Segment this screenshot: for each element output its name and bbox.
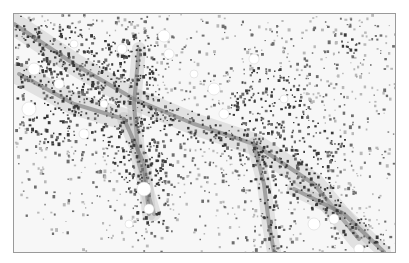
cell-nucleus	[96, 171, 99, 173]
cell-nucleus	[280, 149, 282, 152]
cell-nucleus	[322, 193, 325, 196]
cell-nucleus	[60, 94, 63, 97]
cell-nucleus	[335, 83, 337, 85]
cell-nucleus	[21, 81, 24, 84]
cell-nucleus	[383, 157, 385, 159]
cell-nucleus	[162, 182, 163, 183]
cell-nucleus	[52, 28, 54, 30]
cell-nucleus	[148, 194, 151, 197]
cell-nucleus	[17, 56, 20, 59]
cell-nucleus	[257, 67, 260, 70]
cell-nucleus	[112, 99, 114, 101]
cell-nucleus	[123, 156, 125, 159]
cell-nucleus	[45, 70, 48, 73]
cell-nucleus	[40, 86, 42, 88]
cell-nucleus	[302, 38, 303, 39]
cell-nucleus	[338, 143, 340, 145]
cell-nucleus	[22, 36, 23, 37]
cell-nucleus	[233, 114, 235, 116]
cell-nucleus	[34, 76, 35, 78]
cell-nucleus	[182, 177, 184, 180]
cell-nucleus	[188, 98, 190, 100]
cell-nucleus	[272, 170, 275, 173]
cell-nucleus	[29, 124, 32, 126]
cell-nucleus	[156, 213, 158, 216]
cell-nucleus	[101, 128, 104, 131]
cell-nucleus	[296, 88, 299, 91]
cell-nucleus	[94, 117, 96, 120]
cell-nucleus	[125, 119, 128, 122]
cell-nucleus	[172, 164, 174, 167]
cell-nucleus	[132, 32, 135, 34]
cell-nucleus	[144, 238, 145, 240]
cell-nucleus	[19, 137, 22, 140]
cell-nucleus	[165, 110, 168, 112]
cell-nucleus	[169, 164, 172, 166]
cell-nucleus	[316, 132, 318, 134]
cell-nucleus	[188, 121, 191, 124]
cell-nucleus	[218, 137, 221, 140]
cell-nucleus	[129, 117, 131, 120]
cell-nucleus	[347, 24, 349, 25]
cell-nucleus	[41, 25, 43, 26]
cell-nucleus	[162, 223, 164, 226]
cell-nucleus	[306, 75, 308, 77]
cell-nucleus	[112, 161, 114, 163]
cell-nucleus	[96, 52, 98, 54]
cell-nucleus	[301, 69, 303, 71]
cell-nucleus	[61, 15, 62, 16]
cell-nucleus	[327, 215, 329, 217]
cell-nucleus	[243, 187, 244, 188]
cell-nucleus	[203, 80, 206, 82]
cell-nucleus	[268, 123, 270, 125]
cell-nucleus	[243, 149, 246, 152]
cell-nucleus	[106, 148, 108, 149]
cell-nucleus	[241, 164, 243, 166]
cell-nucleus	[66, 74, 69, 77]
cell-nucleus	[111, 117, 113, 119]
cell-nucleus	[290, 181, 291, 182]
cell-nucleus	[365, 218, 367, 220]
cell-nucleus	[276, 138, 277, 139]
cell-nucleus	[37, 133, 40, 136]
cell-nucleus	[231, 149, 233, 150]
cell-nucleus	[238, 179, 239, 180]
cell-nucleus	[139, 40, 141, 41]
cell-nucleus	[130, 158, 132, 160]
cell-nucleus	[194, 164, 196, 166]
cell-nucleus	[76, 124, 79, 127]
vacuole	[164, 49, 174, 59]
cell-nucleus	[158, 184, 160, 186]
cell-nucleus	[312, 100, 314, 103]
cell-nucleus	[333, 31, 335, 33]
cell-nucleus	[299, 140, 301, 142]
cell-nucleus	[223, 170, 224, 172]
cell-nucleus	[104, 85, 106, 87]
cell-nucleus	[17, 97, 20, 99]
cell-nucleus	[313, 192, 315, 193]
cell-nucleus	[21, 182, 23, 184]
cell-nucleus	[26, 128, 29, 131]
cell-nucleus	[330, 185, 331, 186]
cell-nucleus	[130, 192, 131, 194]
cell-nucleus	[266, 73, 268, 75]
vacuole	[308, 218, 320, 230]
cell-nucleus	[336, 209, 339, 212]
cell-nucleus	[279, 62, 282, 64]
cell-nucleus	[200, 83, 203, 85]
cell-nucleus	[120, 194, 121, 195]
cell-nucleus	[163, 58, 165, 60]
cell-nucleus	[102, 48, 104, 51]
cell-nucleus	[25, 61, 28, 64]
cell-nucleus	[50, 71, 52, 73]
cell-nucleus	[286, 94, 288, 96]
cell-nucleus	[19, 127, 20, 129]
cell-nucleus	[93, 55, 95, 57]
cell-nucleus	[62, 232, 63, 233]
cell-nucleus	[178, 214, 180, 215]
cell-nucleus	[67, 115, 69, 116]
vacuole	[158, 30, 170, 42]
cell-nucleus	[246, 51, 249, 54]
cell-nucleus	[203, 130, 205, 133]
cell-nucleus	[250, 29, 252, 31]
